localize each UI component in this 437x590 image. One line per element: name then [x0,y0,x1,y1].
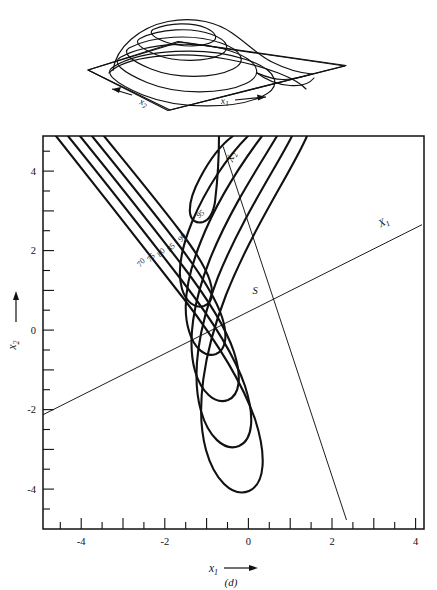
y-tick-label--2: -2 [27,404,36,415]
contour-line-70 [56,136,307,492]
contour-line-85 [92,136,262,355]
surface-x1-label: x1 [219,95,229,108]
surface-axis-labels: x2 x1 [112,87,266,111]
x-tick-label-0: 0 [246,536,251,547]
surface-contour-ring-5 [110,51,275,106]
y-tick-label--4: -4 [27,484,36,495]
contour-line-95 [190,136,233,223]
y-axis-title-group: x2 [6,291,21,351]
plot-frame [43,136,424,529]
x-axis-title: x1 [208,562,218,577]
y-axis-title-arrow-head [13,291,19,300]
three-dimensional-response-surface [88,20,346,111]
y-tick-label-2: 2 [31,245,36,256]
contour-label-85: 85 [165,242,177,254]
x-axis-tick-labels: -4 -2 0 2 4 [77,536,419,547]
surface-contour-ring-6 [109,55,306,89]
canonical-axis-X1-label: X1 [376,215,392,232]
figure-caption: (d) [225,576,238,589]
x-tick-label-2: 2 [329,536,334,547]
figure-container: x2 x1 [0,0,437,590]
y-axis-ticks [43,151,54,509]
x-tick-label--4: -4 [77,536,86,547]
stationary-point-label: S [252,285,258,296]
x-axis-ticks [60,518,415,529]
contour-line-75 [68,136,292,447]
canonical-axis-X2-line [223,146,346,520]
y-tick-label-4: 4 [31,166,37,177]
x-tick-label-4: 4 [413,536,419,547]
x-axis-title-arrow-head [249,565,258,571]
contour-line-80 [80,136,277,401]
y-tick-label-0: 0 [31,325,36,336]
y-axis-tick-labels: 4 2 0 -2 -4 [27,166,37,495]
canonical-axes [43,146,422,520]
surface-x1-axis-annotation: x1 [219,95,266,109]
x-axis-title-group: x1 [208,562,258,577]
contour-label-90: 90 [176,232,188,244]
contour-curves [56,136,307,492]
surface-x2-label: x2 [137,96,150,110]
figure-svg: x2 x1 [0,0,437,590]
y-axis-title: x2 [6,340,21,350]
x-tick-label--2: -2 [160,536,169,547]
canonical-axis-X1-line [43,225,422,415]
